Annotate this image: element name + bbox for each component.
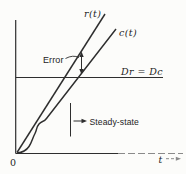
time-arrow-right-icon (176, 157, 181, 161)
ramp-response-plot: r(t) c(t) Error Dr = Dc Steady-state 0 t (0, 0, 186, 174)
steady-state-label: Steady-state (90, 117, 140, 127)
origin-label: 0 (10, 157, 16, 168)
steady-state-arrow-right-icon (82, 119, 88, 123)
ramp-response-figure: r(t) c(t) Error Dr = Dc Steady-state 0 t (0, 0, 186, 174)
error-label: Error (43, 55, 64, 65)
output-response-label: c(t) (119, 27, 137, 38)
ramp-input-curve (17, 14, 105, 153)
equal-displacement-label: Dr = Dc (120, 66, 163, 77)
output-response-curve (17, 29, 116, 153)
time-axis-label: t (159, 154, 163, 165)
ramp-input-label: r(t) (84, 8, 101, 19)
